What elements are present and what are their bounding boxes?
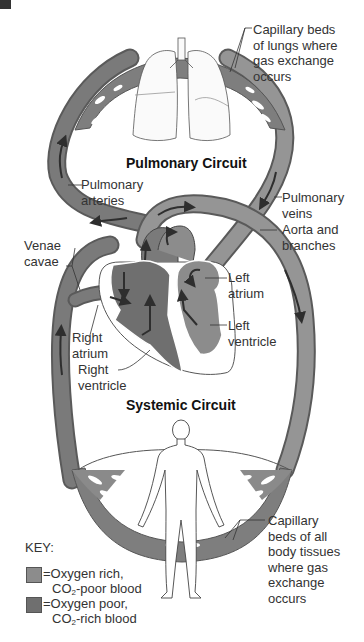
label-body-capillary-beds: Capillary beds of all body tissues where… xyxy=(268,513,340,606)
label-right-atrium: Right atrium xyxy=(72,330,108,361)
legend-title: KEY: xyxy=(25,540,54,555)
systemic-circuit-title: Systemic Circuit xyxy=(126,397,236,413)
label-left-ventricle: Left ventricle xyxy=(228,318,276,349)
human-body-figure xyxy=(138,420,224,598)
label-left-atrium: Left atrium xyxy=(228,270,264,301)
label-right-ventricle: Right ventricle xyxy=(78,362,126,393)
pulmonary-circuit-title: Pulmonary Circuit xyxy=(126,155,247,171)
label-venae-cavae: Venae cavae xyxy=(24,238,61,269)
legend-swatch-oxygen-rich xyxy=(26,567,42,583)
legend-swatch-oxygen-poor xyxy=(26,597,42,613)
label-pulmonary-veins: Pulmonary veins xyxy=(282,190,344,221)
legend-item-oxygen-rich: =Oxygen rich, CO2-poor blood xyxy=(26,566,142,600)
label-pulmonary-arteries: Pulmonary arteries xyxy=(81,177,143,208)
label-aorta-and-branches: Aorta and branches xyxy=(282,222,338,253)
legend-item-oxygen-poor: =Oxygen poor, CO2-rich blood xyxy=(26,596,137,630)
label-lung-capillary-beds: Capillary beds of lungs where gas exchan… xyxy=(253,22,338,84)
circulation-diagram: Pulmonary Circuit Systemic Circuit Capil… xyxy=(0,0,364,642)
